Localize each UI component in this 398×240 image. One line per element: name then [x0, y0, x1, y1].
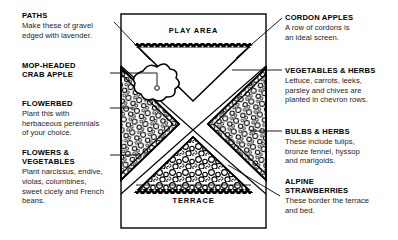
callout-flowerbed-title: FLOWERBED: [22, 99, 132, 108]
callout-bulbs-and-herbs-body: These include tulips, bronze fennel, hys…: [285, 137, 397, 166]
callout-vegetables-and-herbs: VEGETABLES & HERBS Lettuce, carrots, lee…: [285, 66, 397, 105]
garden-plan-figure: PLAY AREA TERRACE PATHS Make these of gr…: [0, 0, 398, 240]
plan-label-terrace: TERRACE: [121, 196, 266, 205]
callout-bulbs-and-herbs: BULBS & HERBS These include tulips, bron…: [285, 127, 397, 166]
callout-cordon-apples-body: A row of cordons is an ideal screen.: [285, 23, 397, 42]
plan-label-play-area: PLAY AREA: [121, 26, 266, 35]
callout-flowerbed-body: Plant this with herbaceous perennials of…: [22, 109, 132, 138]
callout-mop-headed-crab-apple-title: MOP-HEADED CRAB APPLE: [22, 61, 132, 80]
callout-bulbs-and-herbs-title: BULBS & HERBS: [285, 127, 397, 136]
callout-alpine-strawberries-body: These border the terrace and bed.: [285, 196, 397, 215]
callout-alpine-strawberries: ALPINE STRAWBERRIES These border the ter…: [285, 177, 397, 216]
callout-flowers-and-vegetables: FLOWERS & VEGETABLES Plant narcissus, en…: [22, 148, 132, 206]
callout-flowers-and-vegetables-title: FLOWERS & VEGETABLES: [22, 148, 132, 167]
callout-flowerbed: FLOWERBED Plant this with herbaceous per…: [22, 99, 132, 138]
callout-paths-title: PATHS: [22, 11, 132, 20]
callout-paths: PATHS Make these of gravel edged with la…: [22, 11, 132, 40]
callout-mop-headed-crab-apple: MOP-HEADED CRAB APPLE: [22, 61, 132, 80]
callout-alpine-strawberries-title: ALPINE STRAWBERRIES: [285, 177, 397, 196]
callout-cordon-apples-title: CORDON APPLES: [285, 13, 397, 22]
callout-flowers-and-vegetables-body: Plant narcissus, endive, violas, columbi…: [22, 167, 132, 205]
callout-paths-body: Make these of gravel edged with lavender…: [22, 21, 132, 40]
callout-vegetables-and-herbs-body: Lettuce, carrots, leeks, parsley and chi…: [285, 76, 397, 105]
callout-cordon-apples: CORDON APPLES A row of cordons is an ide…: [285, 13, 397, 42]
callout-vegetables-and-herbs-title: VEGETABLES & HERBS: [285, 66, 397, 75]
